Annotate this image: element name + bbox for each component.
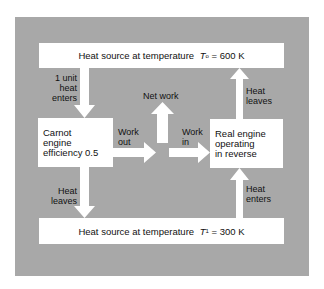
heat-leaves-real-line-1: Heat [246, 86, 272, 96]
real-engine-box: Real engine operating in reverse [210, 119, 283, 168]
carnot-engine-box: Carnot engine efficiency 0.5 [38, 118, 113, 167]
heat-leaves-carnot-line-2: leaves [40, 196, 77, 206]
heat-leaves-carnot-line-1: Heat [40, 186, 77, 196]
net-work-arrow [151, 102, 174, 143]
heat-leaves-carnot-label: Heat leaves [40, 186, 77, 206]
heat-enters-carnot-line-1: 1 unit [40, 73, 77, 83]
work-in-label: Work in [182, 127, 203, 147]
work-out-line-1: Work [118, 127, 139, 137]
heat-enters-real-label: Heat enters [246, 184, 271, 204]
heat-leaves-real-line-2: leaves [246, 96, 272, 106]
heat-leaves-real-label: Heat leaves [246, 86, 272, 106]
heat-enters-real-line-2: enters [246, 194, 271, 204]
heat-enters-carnot-line-2: heat [40, 83, 77, 93]
cold-reservoir-label-prefix: Heat source at temperature [78, 226, 196, 237]
hot-reservoir-box: Heat source at temperature To = 600 K [39, 43, 284, 68]
work-in-line-2: in [182, 137, 203, 147]
hot-reservoir-label-suffix: = 600 K [209, 50, 245, 61]
heat-leaves-carnot-arrow [74, 167, 95, 218]
heat-enters-carnot-line-3: enters [40, 93, 77, 103]
real-engine-line-3: in reverse [215, 149, 283, 159]
heat-enters-carnot-label: 1 unit heat enters [40, 73, 77, 103]
net-work-label: Net work [143, 91, 179, 101]
cold-reservoir-label-suffix: = 300 K [209, 226, 245, 237]
work-in-line-1: Work [182, 127, 203, 137]
hot-reservoir-label-prefix: Heat source at temperature [78, 50, 196, 61]
cold-reservoir-box: Heat source at temperature T1 = 300 K [39, 218, 284, 244]
heat-enters-carnot-arrow [74, 68, 95, 118]
work-out-line-2: out [118, 137, 139, 147]
carnot-engine-line-3: efficiency 0.5 [43, 148, 113, 158]
heat-enters-real-line-1: Heat [246, 184, 271, 194]
work-out-label: Work out [118, 127, 139, 147]
